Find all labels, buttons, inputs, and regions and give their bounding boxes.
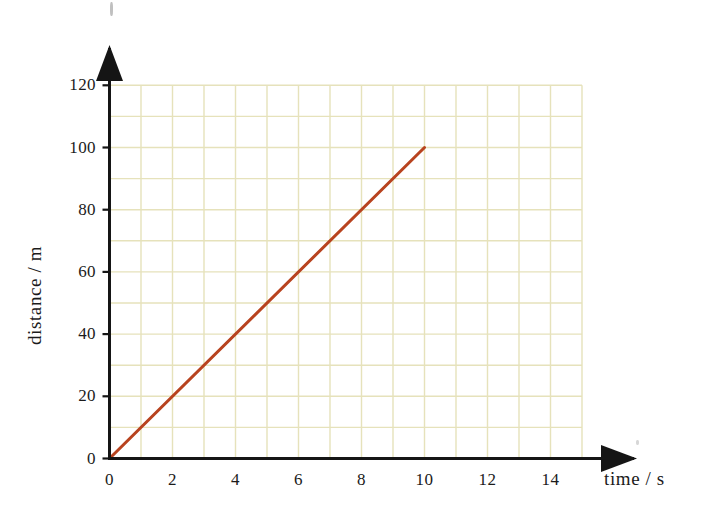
scan-artifact: [636, 440, 639, 445]
x-tick-label: 6: [294, 470, 303, 490]
y-axis-title: distance / m: [24, 246, 46, 345]
grid-horizontal-lines: [110, 85, 583, 458]
x-tick-label: 14: [542, 470, 560, 490]
scan-artifact: [110, 2, 113, 16]
y-tick-label: 60: [52, 262, 96, 282]
x-tick-label: 8: [357, 470, 366, 490]
x-tick-label: 0: [105, 470, 114, 490]
x-axis-title: time / s: [604, 468, 665, 490]
y-tick-label: 40: [52, 324, 96, 344]
distance-time-graph: 020406080100120 02468101214 time / s dis…: [0, 0, 709, 520]
y-tick-label: 0: [52, 449, 96, 469]
x-tick-label: 2: [168, 470, 177, 490]
y-tick-label: 100: [52, 138, 96, 158]
x-tick-label: 12: [479, 470, 497, 490]
graph-canvas: [0, 0, 709, 520]
x-tick-label: 4: [231, 470, 240, 490]
y-tick-label: 80: [52, 200, 96, 220]
y-tick-label: 20: [52, 386, 96, 406]
y-tick-label: 120: [52, 75, 96, 95]
x-tick-label: 10: [416, 470, 434, 490]
